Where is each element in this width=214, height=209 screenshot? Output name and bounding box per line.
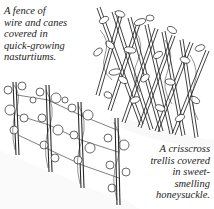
trellis-caption: A crisscross trellis covered in sweet- s… (126, 143, 210, 201)
fence-caption: A fence of wire and canes covered in qui… (4, 5, 84, 63)
